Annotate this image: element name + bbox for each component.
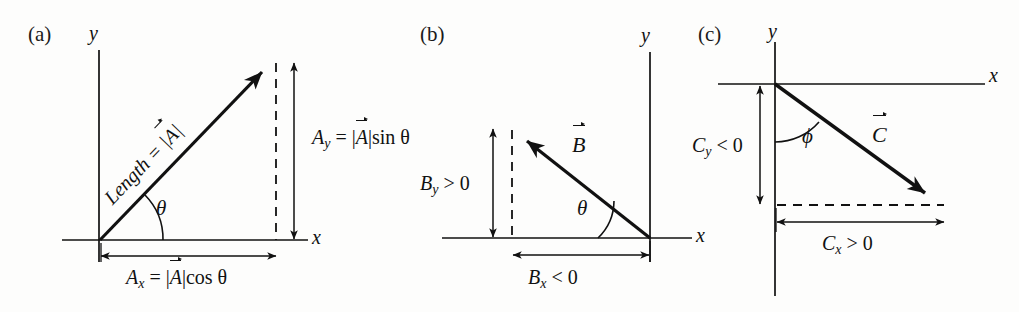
panel-c-vector-C [775, 84, 925, 193]
panel-c-label: (c) [698, 22, 721, 47]
panel-a-Ax-label: Ax = |A|cos θ [126, 266, 227, 292]
panel-c-Cx-lhs: C [822, 232, 835, 254]
panel-a-Ax-rhs-post: |cos θ [182, 266, 227, 288]
panel-c-Cy-lhs: C [692, 134, 705, 156]
panel-a-graphics [62, 50, 308, 262]
panel-c-vector-C-label: C [872, 122, 887, 148]
panel-c-Cy-rhs: < 0 [712, 134, 743, 156]
panel-b-Bx-label: Bx < 0 [528, 266, 578, 292]
panel-c-Cy-label: Cy < 0 [692, 134, 743, 160]
panel-c-phi-label: ϕ [802, 124, 813, 149]
vector-components-figure: (a) y x Length = |A| θ Ay = |A|sin θ Ax … [0, 0, 1019, 312]
panel-c-vector-symbol: C [872, 122, 887, 148]
panel-a-Ax-vector-symbol: A [170, 266, 182, 289]
panel-a-x-axis-label: x [312, 226, 321, 249]
panel-b-label: (b) [420, 22, 445, 47]
panel-c-x-axis-label: x [989, 64, 998, 87]
panel-b-x-axis-label: x [696, 224, 705, 247]
panel-a-Ay-vector-symbol: A [356, 126, 368, 149]
panel-a-Ay-rhs-pre: = | [330, 126, 355, 148]
panel-a-Ay-lhs: A [312, 126, 324, 148]
panel-c-Cx-label: Cx > 0 [822, 232, 873, 258]
panel-b-Bx-lhs: B [528, 266, 540, 288]
panel-a-label: (a) [28, 22, 51, 47]
panel-b-By-rhs: > 0 [438, 172, 469, 194]
panel-b-Bx-rhs: < 0 [546, 266, 577, 288]
panel-a-Ax-lhs: A [126, 266, 138, 288]
panel-b-vector-symbol: B [572, 132, 585, 158]
panel-a-Ay-label: Ay = |A|sin θ [312, 126, 410, 152]
panel-b-graphics [442, 52, 692, 262]
panel-b-y-axis-label: y [641, 24, 650, 47]
panel-c-Cx-rhs: > 0 [842, 232, 873, 254]
panel-a-y-axis-label: y [89, 22, 98, 45]
panel-b-By-lhs: B [420, 172, 432, 194]
panel-a-Ay-rhs-post: |sin θ [368, 126, 410, 148]
panel-b-vector-B [527, 141, 650, 238]
panel-b-vector-B-label: B [572, 132, 585, 158]
panel-a-vector-A [100, 72, 262, 240]
panel-a-theta-label: θ [156, 196, 166, 221]
panel-a-Ax-rhs-pre: = | [144, 266, 169, 288]
panel-c-y-axis-label: y [768, 20, 777, 43]
panel-b-By-label: By > 0 [420, 172, 470, 198]
panel-b-theta-label: θ [577, 196, 587, 221]
